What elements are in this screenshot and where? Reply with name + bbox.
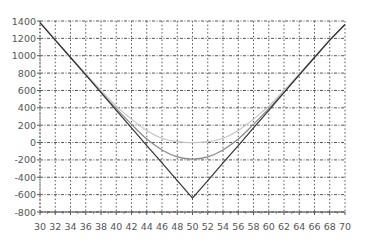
- x-tick-label: 30: [34, 221, 46, 232]
- x-tick-label: 62: [278, 221, 290, 232]
- x-tick-label: 44: [141, 221, 153, 232]
- x-tick-label: 36: [80, 221, 92, 232]
- y-tick-label: 1000: [12, 50, 36, 61]
- x-tick-label: 50: [186, 221, 198, 232]
- x-tick-label: 34: [64, 221, 76, 232]
- x-tick-label: 40: [110, 221, 122, 232]
- y-tick-label: -600: [14, 189, 36, 200]
- y-tick-label: -400: [14, 172, 36, 183]
- x-tick-label: 54: [217, 221, 229, 232]
- y-axis-tick-labels: 1400120010008006004002000-200-400-600-80…: [12, 16, 36, 218]
- x-axis-tick-labels: 3032343638404244464850525456586062646668…: [34, 221, 351, 232]
- y-tick-label: 800: [18, 68, 36, 79]
- y-tick-label: 600: [18, 85, 36, 96]
- y-tick-label: 200: [18, 120, 36, 131]
- y-tick-label: 400: [18, 102, 36, 113]
- line-chart: 1400120010008006004002000-200-400-600-80…: [0, 0, 365, 250]
- x-tick-label: 58: [247, 221, 259, 232]
- x-tick-label: 46: [156, 221, 168, 232]
- x-tick-label: 66: [308, 221, 320, 232]
- x-tick-label: 48: [171, 221, 183, 232]
- x-tick-label: 38: [95, 221, 107, 232]
- grid-lines: [40, 21, 345, 212]
- y-tick-label: 0: [30, 137, 36, 148]
- x-tick-label: 68: [324, 221, 336, 232]
- x-tick-label: 64: [293, 221, 305, 232]
- x-tick-label: 52: [202, 221, 214, 232]
- x-tick-label: 70: [339, 221, 351, 232]
- y-tick-label: -800: [14, 207, 36, 218]
- x-tick-label: 32: [49, 221, 61, 232]
- y-tick-label: -200: [14, 154, 36, 165]
- y-tick-label: 1400: [12, 16, 36, 27]
- x-tick-label: 56: [232, 221, 244, 232]
- y-tick-label: 1200: [12, 33, 36, 44]
- x-tick-label: 42: [125, 221, 137, 232]
- x-tick-label: 60: [263, 221, 275, 232]
